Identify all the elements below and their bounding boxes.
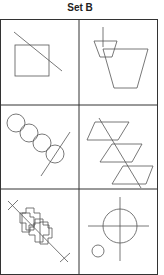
x-mark-top-stroke (8, 200, 18, 210)
large-trapezoid (103, 49, 148, 88)
parallelogram-3 (112, 166, 153, 184)
cell-2-trapezoids (94, 27, 148, 88)
square-shape (15, 45, 49, 76)
cross-shape-2 (29, 219, 49, 242)
diagonal-line (8, 201, 68, 262)
x-mark-bottom-stroke (60, 253, 70, 262)
diagonal-line (41, 132, 70, 176)
diagonal-line (14, 32, 62, 71)
circle-4 (46, 145, 64, 163)
circle-1 (7, 114, 25, 132)
shape-grid-diagram (0, 0, 164, 275)
step-shape-1 (22, 213, 34, 232)
cell-3-circles-chain (7, 114, 70, 176)
diagonal-line (99, 118, 141, 188)
cell-4-parallelograms (87, 118, 153, 188)
small-circle (92, 245, 104, 257)
cell-5-crosses-line (8, 200, 70, 262)
cell-6-crosshair-circles (88, 197, 149, 261)
parallelogram-2 (100, 144, 142, 162)
cell-1-square-line (14, 32, 62, 76)
circle-2 (20, 124, 38, 142)
parallelogram-1 (87, 122, 129, 140)
circle-3 (33, 134, 51, 152)
